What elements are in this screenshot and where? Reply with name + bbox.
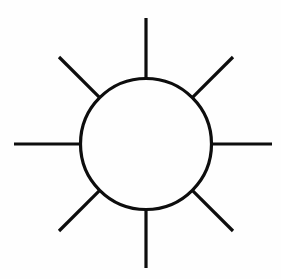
ray-northwest — [59, 57, 100, 98]
sun-circle — [81, 79, 212, 210]
ray-northeast — [192, 57, 233, 98]
ray-southwest — [59, 190, 100, 231]
sun-symbol-figure — [0, 0, 281, 279]
rays-group — [14, 18, 272, 268]
ray-southeast — [192, 190, 233, 231]
figure-canvas — [0, 0, 281, 279]
